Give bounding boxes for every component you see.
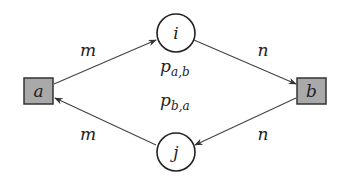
- edge-i-to-b: [194, 40, 296, 84]
- edge-a-to-i: [54, 40, 156, 84]
- p-ba-base: p: [160, 90, 171, 110]
- edge-label-i-b: n: [258, 40, 269, 60]
- diagram-canvas: a b i j m n n m p a,b p b,a: [0, 0, 344, 185]
- edge-label-b-j: n: [258, 124, 269, 144]
- edge-j-to-a: [55, 98, 156, 145]
- annotation-p-ba: p b,a: [160, 90, 190, 113]
- node-j: j: [157, 133, 195, 171]
- edge-label-j-a: m: [80, 124, 96, 144]
- node-a-label: a: [33, 81, 43, 101]
- edge-label-a-i: m: [80, 40, 96, 60]
- annotation-p-ab: p a,b: [160, 56, 190, 79]
- node-b: b: [297, 78, 326, 104]
- p-ab-subscript: a,b: [171, 65, 190, 79]
- node-i-label: i: [173, 23, 178, 43]
- p-ab-base: p: [160, 56, 171, 76]
- node-b-label: b: [306, 81, 317, 101]
- edge-b-to-j: [195, 98, 296, 145]
- node-a: a: [24, 78, 53, 104]
- node-i: i: [157, 14, 195, 52]
- p-ba-subscript: b,a: [171, 99, 190, 113]
